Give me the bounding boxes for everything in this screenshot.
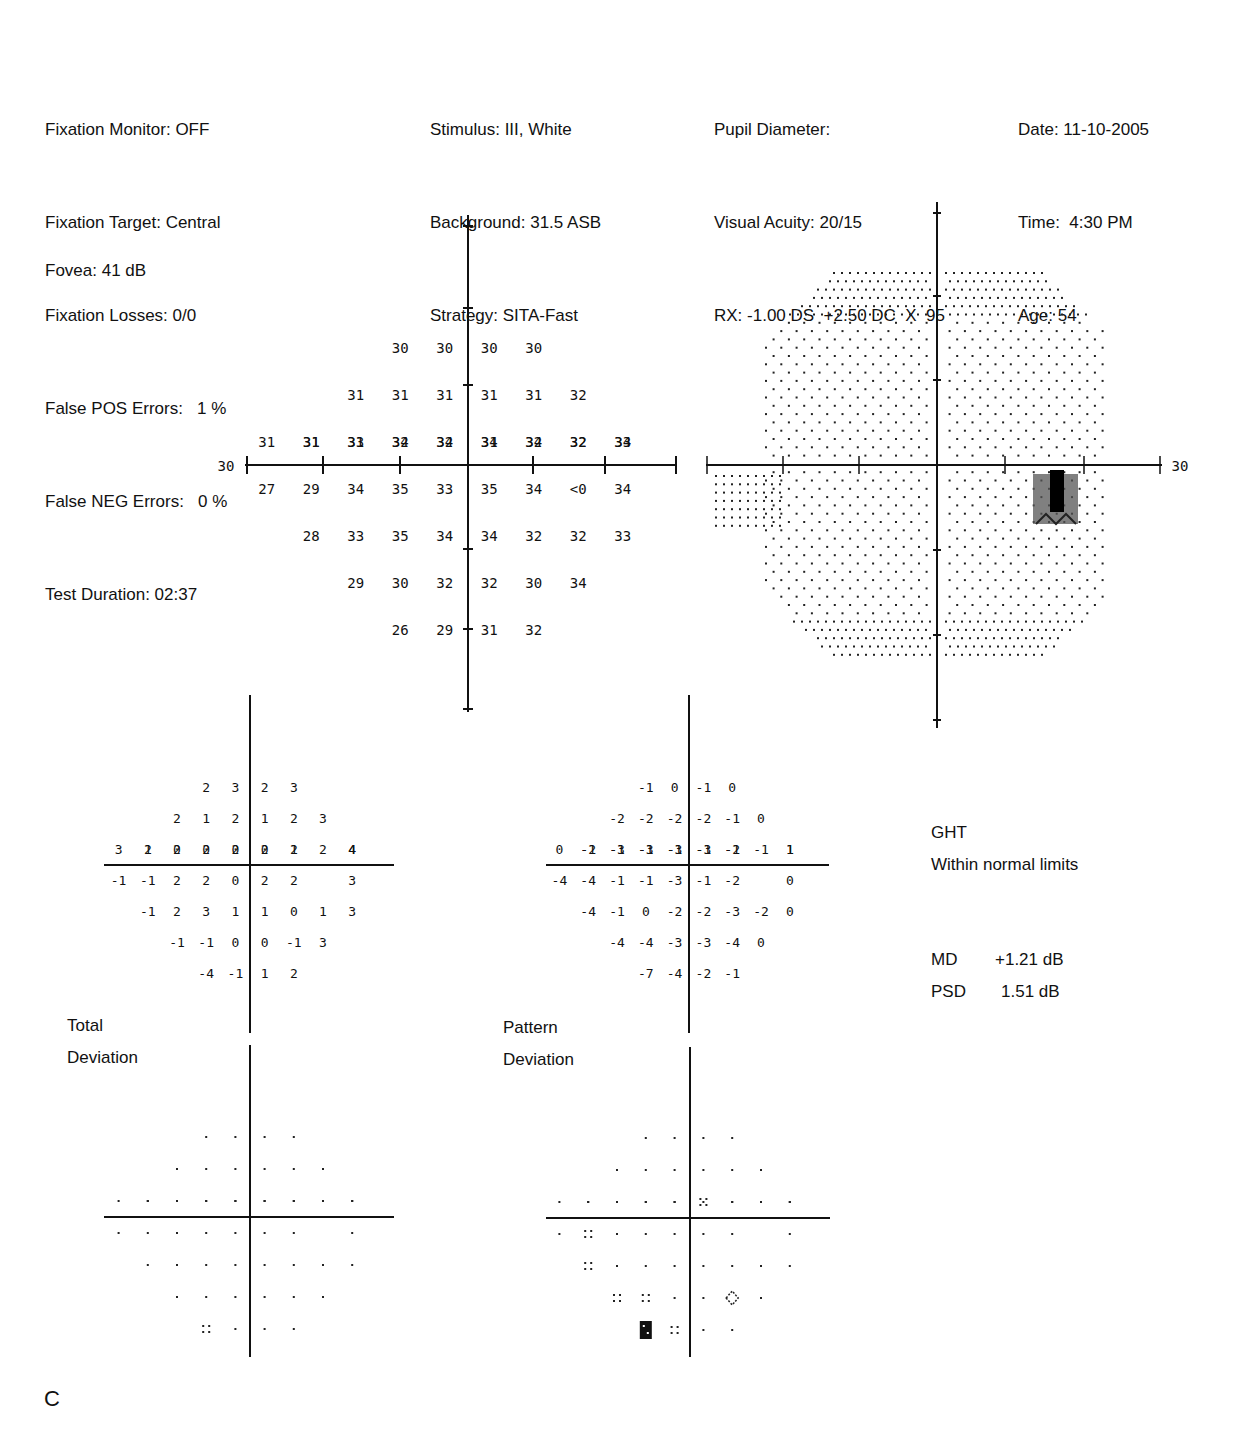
probability-symbols — [0, 0, 1250, 1439]
figure-letter: C — [44, 1386, 60, 1412]
